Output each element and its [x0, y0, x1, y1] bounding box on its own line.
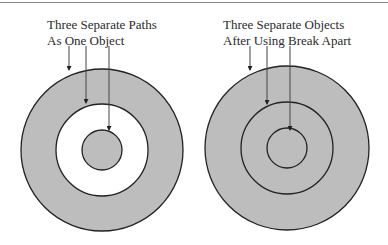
right-inner-object	[267, 128, 307, 168]
left-compound-object	[21, 69, 183, 231]
diagram-canvas	[0, 0, 388, 245]
right-separate-objects	[205, 66, 369, 230]
